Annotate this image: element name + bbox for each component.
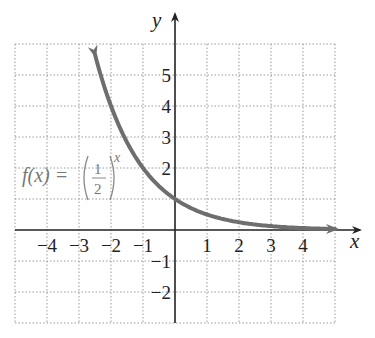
x-tick-label: 4 (298, 235, 308, 256)
svg-text:f(x) =: f(x) = (22, 164, 68, 187)
x-tick-label: −2 (101, 235, 121, 256)
y-tick-label: −1 (151, 251, 171, 272)
exponential-decay-chart: −4−3−2−112345432−1−2 x y f(x) = 1 2 x (0, 0, 375, 338)
x-tick-label: 1 (202, 235, 212, 256)
y-tick-label: 5 (162, 65, 172, 86)
x-tick-label: 2 (234, 235, 244, 256)
x-tick-label: 3 (266, 235, 276, 256)
x-tick-label: −4 (37, 235, 58, 256)
y-tick-label: 4 (162, 96, 172, 117)
function-name: f(x) = (22, 164, 68, 187)
left-paren (84, 156, 88, 200)
exponent: x (113, 150, 121, 165)
function-curve (95, 55, 335, 229)
y-tick-label: 3 (162, 127, 172, 148)
tick-labels: −4−3−2−112345432−1−2 (37, 65, 308, 303)
y-tick-label: 2 (162, 158, 172, 179)
y-axis-label: y (150, 8, 162, 32)
x-axis-label: x (349, 229, 360, 253)
fraction-denominator: 2 (94, 181, 102, 197)
curve-path (95, 55, 335, 229)
x-tick-label: −3 (69, 235, 89, 256)
fraction-numerator: 1 (94, 161, 102, 177)
y-tick-label: −2 (151, 282, 171, 303)
function-label: f(x) = 1 2 x (22, 150, 121, 200)
